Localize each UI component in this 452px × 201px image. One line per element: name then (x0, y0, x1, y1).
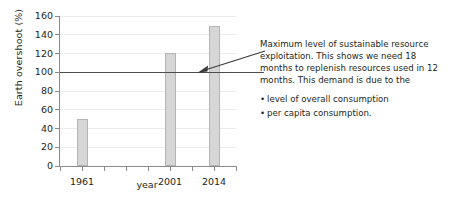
y-axis-tick-label: 60 (23, 105, 53, 115)
gridline (60, 16, 236, 17)
y-axis-tick (55, 128, 60, 129)
x-axis-tick (60, 166, 61, 171)
x-axis-tick (170, 166, 171, 171)
earth-overshoot-figure: Earth overshoot (%) 02040608010012014016… (0, 0, 452, 201)
y-axis-tick (55, 109, 60, 110)
y-axis-tick-label: 120 (23, 49, 53, 59)
x-axis-tick (82, 166, 83, 171)
annotation-bullet-list: level of overall consumption per capita … (260, 93, 450, 119)
y-axis-tick-label: 100 (23, 67, 53, 77)
x-axis-tick (236, 166, 237, 171)
y-axis-tick (55, 91, 60, 92)
y-axis-tick-label: 0 (23, 161, 53, 171)
annotation-paragraph: Maximum level of sustainable resource ex… (260, 38, 450, 86)
y-axis-tick-label: 140 (23, 30, 53, 40)
x-axis-tick (192, 166, 193, 171)
y-axis-tick (55, 16, 60, 17)
x-axis-tick (148, 166, 149, 171)
bar-2014 (209, 26, 220, 166)
list-item: level of overall consumption (260, 93, 450, 105)
y-axis-tick-label: 80 (23, 86, 53, 96)
x-axis-tick (104, 166, 105, 171)
x-axis-tick (126, 166, 127, 171)
list-item: per capita consumption. (260, 107, 450, 119)
bar-chart: Earth overshoot (%) 02040608010012014016… (0, 0, 240, 201)
bar-2001 (165, 53, 176, 166)
y-axis-tick-label: 20 (23, 142, 53, 152)
y-axis-title: Earth overshoot (%) (13, 0, 24, 124)
y-axis-tick-label: 40 (23, 124, 53, 134)
annotation-text: Maximum level of sustainable resource ex… (260, 38, 450, 121)
y-axis-tick-label: 160 (23, 11, 53, 21)
bar-1961 (77, 119, 88, 166)
y-axis-tick (55, 53, 60, 54)
y-axis-tick (55, 34, 60, 35)
x-axis-title: year (59, 179, 235, 190)
x-axis-tick (214, 166, 215, 171)
plot-area: 020406080100120140160196120012014 (59, 16, 236, 167)
annotation-leader-arrow (195, 50, 267, 76)
y-axis-tick (55, 147, 60, 148)
